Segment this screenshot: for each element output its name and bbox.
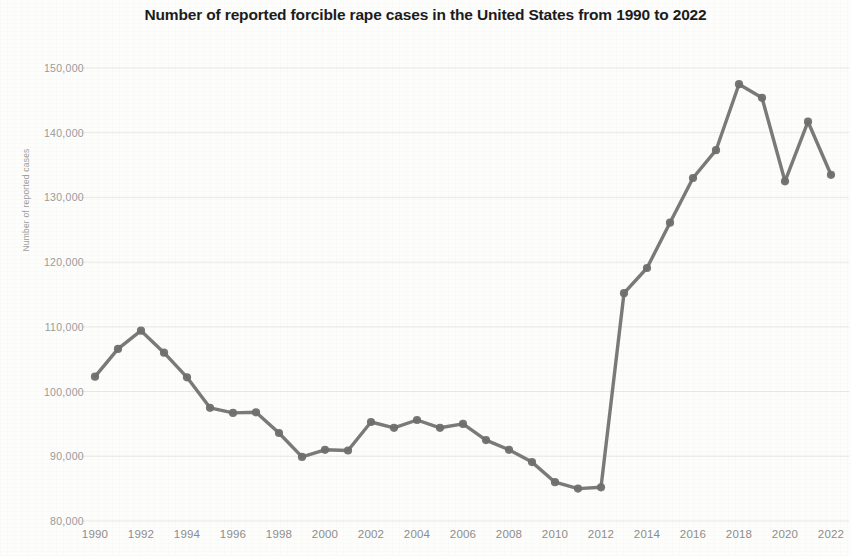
- data-point: [689, 174, 697, 182]
- y-axis-tick-label: 130,000: [44, 191, 84, 203]
- x-axis-tick-label: 2010: [542, 528, 568, 540]
- x-axis-tick-label: 2008: [496, 528, 522, 540]
- data-point: [413, 416, 421, 424]
- data-point: [229, 409, 237, 417]
- data-point: [781, 177, 789, 185]
- data-point: [160, 349, 168, 357]
- data-point: [620, 289, 628, 297]
- x-axis-tick-label: 2020: [772, 528, 798, 540]
- data-point: [666, 219, 674, 227]
- data-point: [597, 483, 605, 491]
- y-axis-tick-label: 100,000: [44, 386, 84, 398]
- y-axis-tick-label: 120,000: [44, 256, 84, 268]
- data-point: [367, 418, 375, 426]
- data-point: [528, 458, 536, 466]
- data-point: [91, 373, 99, 381]
- y-axis-tick-label: 150,000: [44, 62, 84, 74]
- x-axis-tick-label: 1998: [266, 528, 292, 540]
- data-point: [459, 420, 467, 428]
- x-axis-tick-label: 2016: [680, 528, 706, 540]
- x-axis-tick-label: 1994: [174, 528, 200, 540]
- x-axis-tick-label: 1990: [82, 528, 108, 540]
- x-axis-tick-label: 2004: [404, 528, 430, 540]
- gridlines: [77, 68, 849, 521]
- data-point: [114, 345, 122, 353]
- x-axis-tick-label: 2018: [726, 528, 752, 540]
- chart-page: Number of reported forcible rape cases i…: [0, 0, 851, 556]
- x-axis-tick-label: 1992: [128, 528, 154, 540]
- y-axis-tick-label: 80,000: [50, 515, 84, 527]
- data-point: [206, 404, 214, 412]
- data-point: [321, 446, 329, 454]
- data-point: [183, 373, 191, 381]
- data-point: [804, 118, 812, 126]
- data-point: [252, 408, 260, 416]
- data-point: [827, 171, 835, 179]
- line-chart-plot: [0, 0, 851, 556]
- data-point: [758, 94, 766, 102]
- data-point: [482, 436, 490, 444]
- data-point: [574, 485, 582, 493]
- y-axis-tick-labels: 150,000140,000130,000120,000110,000100,0…: [0, 0, 84, 556]
- data-point: [712, 146, 720, 154]
- data-point: [551, 478, 559, 486]
- data-point: [298, 453, 306, 461]
- x-axis-tick-label: 2002: [358, 528, 384, 540]
- series-markers: [91, 80, 835, 493]
- data-point: [436, 424, 444, 432]
- data-point: [390, 424, 398, 432]
- data-point: [643, 264, 651, 272]
- data-point: [735, 80, 743, 88]
- x-axis-tick-labels: 1990199219941996199820002002200420062008…: [0, 528, 851, 552]
- data-point: [275, 429, 283, 437]
- x-axis-tick-label: 2022: [818, 528, 844, 540]
- data-point: [344, 446, 352, 454]
- x-axis-tick-label: 2006: [450, 528, 476, 540]
- x-axis-tick-label: 2000: [312, 528, 338, 540]
- x-axis-tick-label: 1996: [220, 528, 246, 540]
- data-point: [137, 327, 145, 335]
- y-axis-tick-label: 140,000: [44, 127, 84, 139]
- y-axis-tick-label: 110,000: [45, 321, 84, 333]
- x-axis-tick-label: 2014: [634, 528, 660, 540]
- y-axis-tick-label: 90,000: [50, 450, 84, 462]
- data-point: [505, 446, 513, 454]
- x-axis-tick-label: 2012: [588, 528, 614, 540]
- chart-title: Number of reported forcible rape cases i…: [0, 6, 851, 24]
